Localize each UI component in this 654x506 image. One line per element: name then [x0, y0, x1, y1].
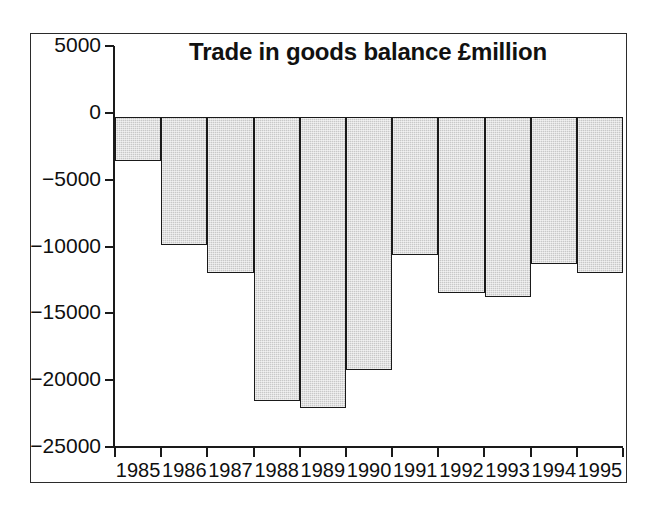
- x-axis-tick-label: 1990: [346, 459, 392, 482]
- x-axis-tick-label: 1994: [531, 459, 577, 482]
- x-axis-tick: [483, 448, 485, 457]
- x-axis-tick: [576, 448, 578, 457]
- y-axis-tick-label: −15000: [1, 300, 101, 324]
- bar-1994: [531, 118, 577, 264]
- y-axis-tick-label: −10000: [1, 234, 101, 258]
- x-axis-tick-label: 1995: [577, 459, 623, 482]
- bar-slot: [392, 118, 438, 447]
- y-axis-tick: [105, 246, 114, 248]
- bar-slot: [254, 118, 300, 447]
- bar-1991: [392, 118, 438, 255]
- y-axis-tick: [105, 45, 114, 47]
- bar-1995: [577, 118, 623, 273]
- x-axis-tick: [299, 448, 301, 457]
- bar-1985: [115, 118, 161, 161]
- bar-slot: [300, 118, 346, 447]
- x-axis-tick-label: 1987: [207, 459, 253, 482]
- x-axis-tick: [253, 448, 255, 457]
- x-axis-tick-label: 1992: [438, 459, 484, 482]
- bar-1987: [207, 118, 253, 273]
- y-axis-tick-label: 0: [1, 100, 101, 124]
- x-axis-tick-label: 1986: [161, 459, 207, 482]
- bar-slot: [577, 118, 623, 447]
- bar-slot: [161, 118, 207, 447]
- x-axis-tick: [391, 448, 393, 457]
- bar-slot: [115, 118, 161, 447]
- x-axis-tick-label: 1993: [485, 459, 531, 482]
- y-axis-tick: [105, 312, 114, 314]
- x-axis-tick: [622, 448, 624, 457]
- y-axis-tick-label: −20000: [1, 367, 101, 391]
- x-axis-tick: [530, 448, 532, 457]
- x-axis-tick: [437, 448, 439, 457]
- x-axis-tick-label: 1989: [300, 459, 346, 482]
- bar-1986: [161, 118, 207, 245]
- bar-1990: [346, 118, 392, 370]
- x-axis-tick-labels: 1985198619871988198919901991199219931994…: [115, 459, 623, 482]
- bar-slot: [438, 118, 484, 447]
- x-axis-tick: [160, 448, 162, 457]
- figure-container: Trade in goods balance £million 19851986…: [0, 0, 654, 506]
- bar-slot: [531, 118, 577, 447]
- y-axis-tick-label: −5000: [1, 167, 101, 191]
- y-axis-tick: [105, 446, 114, 448]
- x-axis-tick: [345, 448, 347, 457]
- y-axis-tick: [105, 112, 114, 114]
- x-axis-tick: [206, 448, 208, 457]
- bar-slot: [207, 118, 253, 447]
- y-axis-tick: [105, 379, 114, 381]
- y-axis-tick: [105, 179, 114, 181]
- bar-1993: [485, 118, 531, 297]
- bar-1988: [254, 118, 300, 401]
- bar-slot: [485, 118, 531, 447]
- x-axis-tick-label: 1985: [115, 459, 161, 482]
- bar-slot: [346, 118, 392, 447]
- y-axis-tick-label: 5000: [1, 33, 101, 57]
- bar-1992: [438, 118, 484, 293]
- x-axis-tick: [114, 448, 116, 457]
- y-axis-tick-label: −25000: [1, 434, 101, 458]
- bar-1989: [300, 118, 346, 408]
- x-axis-tick-label: 1988: [254, 459, 300, 482]
- x-axis-tick-label: 1991: [392, 459, 438, 482]
- bar-series: [115, 118, 623, 447]
